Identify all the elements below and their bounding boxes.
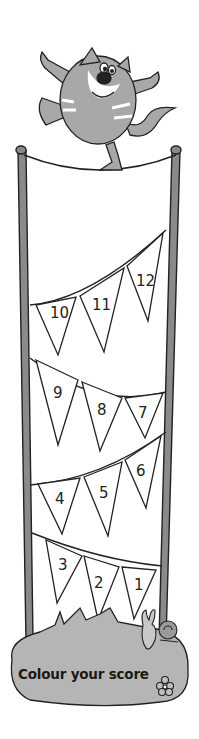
- flag-9[interactable]: [36, 360, 78, 445]
- bunting-row-1: [30, 230, 166, 355]
- tightrope: [24, 155, 176, 170]
- left-pole: [16, 146, 33, 642]
- flag-label-2: 2: [94, 574, 104, 592]
- bunting-row-3: [30, 432, 166, 536]
- score-chart-illustration: 10 11 12 9 8 7 4 5 6 3 2 1: [0, 0, 199, 739]
- flag-label-11: 11: [92, 296, 111, 314]
- caption-title: Colour your score: [18, 666, 149, 682]
- flag-label-9: 9: [53, 384, 63, 402]
- flag-label-8: 8: [97, 401, 107, 419]
- flag-label-10: 10: [50, 304, 69, 322]
- flag-label-3: 3: [58, 556, 68, 574]
- flag-label-7: 7: [138, 404, 148, 422]
- flag-label-6: 6: [136, 462, 146, 480]
- flag-label-5: 5: [99, 484, 109, 502]
- flag-label-12: 12: [136, 272, 155, 290]
- flag-label-1: 1: [134, 576, 144, 594]
- rabbit-illustration: [142, 610, 156, 649]
- flag-label-4: 4: [55, 490, 65, 508]
- cat-illustration: [39, 48, 175, 170]
